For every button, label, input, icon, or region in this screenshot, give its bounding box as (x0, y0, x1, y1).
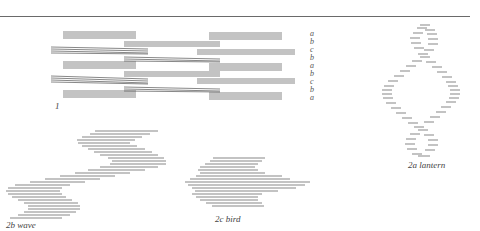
figure-1-weave (51, 32, 295, 99)
figure-2a-label: 2a lantern (408, 160, 445, 170)
figure-2c-label: 2c bird (215, 214, 240, 224)
figure-2b-label: 2b wave (6, 220, 36, 230)
weave-diagrams (0, 0, 480, 231)
row-letter-key: a b c b a b c b a (310, 30, 314, 102)
figure-1-label: 1 (55, 101, 60, 111)
figure-2c-bird (185, 158, 310, 206)
figure-2b-wave (6, 131, 166, 218)
figure-2a-lantern (382, 25, 460, 156)
row-letter: a (310, 94, 314, 102)
